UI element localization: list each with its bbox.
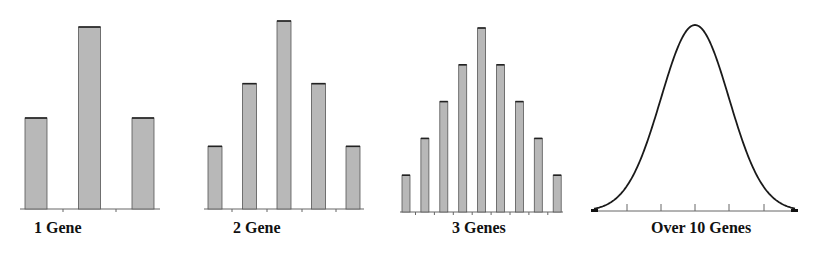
bar — [208, 146, 222, 209]
bar — [515, 102, 523, 212]
chart-3-label: 3 Genes — [452, 219, 506, 237]
bar — [243, 84, 257, 209]
chart-1-gene — [20, 27, 160, 212]
chart-4-label: Over 10 Genes — [651, 219, 751, 237]
bar — [312, 84, 326, 209]
bar — [553, 175, 561, 212]
chart-1-label: 1 Gene — [34, 219, 82, 237]
bar — [277, 21, 291, 209]
bar — [478, 28, 486, 212]
charts-canvas — [0, 0, 814, 254]
bar — [459, 65, 467, 212]
bar — [25, 118, 47, 209]
bar — [79, 27, 101, 209]
bar — [534, 138, 542, 212]
chart-over-10-genes — [591, 25, 798, 212]
chart-2-label: 2 Gene — [233, 219, 281, 237]
chart-2-gene — [204, 21, 364, 212]
chart-3-genes — [400, 28, 563, 215]
bar — [402, 175, 410, 212]
bar — [497, 65, 505, 212]
bell-curve — [594, 25, 795, 209]
bar — [440, 102, 448, 212]
curve-endpoint-left — [591, 209, 598, 212]
curve-endpoint-right — [791, 209, 798, 212]
bar — [132, 118, 154, 209]
bar — [346, 146, 360, 209]
bar — [421, 138, 429, 212]
